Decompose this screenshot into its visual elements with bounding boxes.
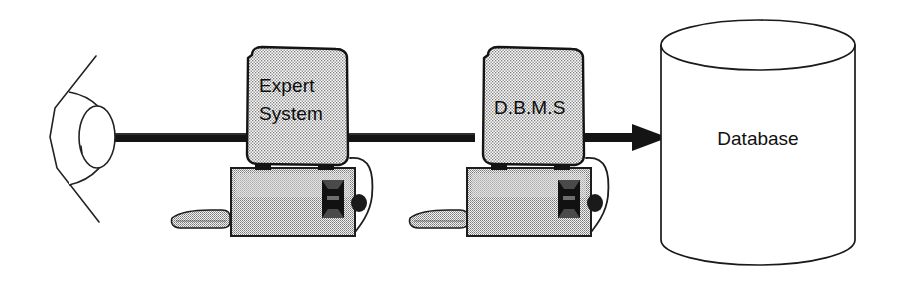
expert-system-keyboard[interactable] (171, 210, 230, 228)
diagram-svg: Expert System (0, 0, 899, 288)
dbms-keyboard[interactable] (409, 210, 468, 228)
dbms-base-unit (467, 168, 603, 236)
expert-system-label-line2: System (259, 103, 323, 124)
database-label: Database (717, 128, 798, 149)
expert-system-label-line1: Expert (259, 75, 315, 96)
database-cylinder[interactable]: Database (661, 20, 855, 265)
connector-viewer-to-expert-system (108, 133, 253, 142)
connector-dbms-to-database (583, 124, 668, 151)
connector-expert-system-to-dbms (345, 133, 475, 142)
eye-icon (50, 56, 115, 222)
diagram-canvas: Expert System (0, 0, 899, 288)
expert-system-base-unit (231, 168, 367, 236)
dbms-label: D.B.M.S (494, 97, 565, 118)
